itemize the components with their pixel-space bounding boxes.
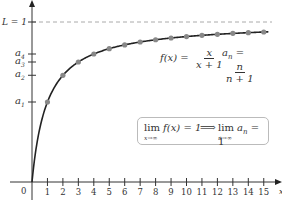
limit-fx: lim f(x) = 1 x→∞ <box>144 122 201 133</box>
f-lhs: f(x) = <box>160 52 189 63</box>
x-tick-label: 14 <box>243 187 254 197</box>
sequence-point <box>230 31 235 36</box>
function-formula: f(x) = x x + 1 <box>160 47 227 70</box>
sequence-point <box>45 99 50 104</box>
sequence-point <box>153 37 158 42</box>
a-eq: = <box>232 47 244 58</box>
x-tick-label: 11 <box>197 187 208 197</box>
x-tick-label: 8 <box>153 187 158 197</box>
x-tick-label: 7 <box>137 187 142 197</box>
y-tick-label: a1 <box>15 95 25 108</box>
x-tick-label: 10 <box>181 187 192 197</box>
f-numerator: x <box>204 47 214 59</box>
asymptote-label: L = 1 <box>1 17 27 27</box>
y-ticks: a1a2a3a4 <box>15 47 36 108</box>
chart: L = 1 0 x 123456789101112131415 a1a2a3a4 <box>0 0 282 208</box>
limit-box: lim f(x) = 1 x→∞ ⟹ lim an = 1 n→∞ <box>137 117 269 145</box>
sequence-formula: an = n n + 1 <box>222 47 282 84</box>
x-tick-label: 12 <box>212 187 223 197</box>
a-denominator: n + 1 <box>224 73 256 84</box>
sequence-point <box>184 34 189 39</box>
f-fraction: x x + 1 <box>194 47 225 70</box>
sequence-point <box>91 51 96 56</box>
a-fraction: n n + 1 <box>224 61 256 84</box>
x-tick-label: 13 <box>227 187 238 197</box>
sequence-point <box>246 30 251 35</box>
x-tick-label: 3 <box>76 187 81 197</box>
x-axis-arrow-icon <box>275 179 282 185</box>
sequence-point <box>60 73 65 78</box>
x-tick-label: 15 <box>258 187 269 197</box>
f-denominator: x + 1 <box>194 59 225 70</box>
y-axis-arrow-icon <box>29 0 35 7</box>
sequence-point <box>138 39 143 44</box>
x-tick-label: 6 <box>122 187 127 197</box>
x-ticks: 123456789101112131415 <box>45 178 269 197</box>
x-axis-label: x <box>279 187 282 196</box>
sequence-point <box>215 32 220 37</box>
limit-an: lim an = 1 n→∞ <box>218 122 268 147</box>
y-tick-label: a2 <box>15 68 25 81</box>
x-tick-label: 5 <box>107 187 112 197</box>
x-tick-label: 4 <box>91 187 96 197</box>
sequence-point <box>261 29 266 34</box>
x-tick-label: 2 <box>60 187 65 197</box>
a-numerator: n <box>235 61 245 73</box>
sequence-point <box>168 35 173 40</box>
sequence-point <box>76 59 81 64</box>
sequence-point <box>199 33 204 38</box>
x-tick-label: 1 <box>45 187 50 197</box>
sequence-point <box>122 42 127 47</box>
sequence-point <box>107 46 112 51</box>
implies-arrow-icon: ⟹ <box>200 121 216 134</box>
x-tick-label: 9 <box>168 187 173 197</box>
origin-label: 0 <box>21 186 26 196</box>
